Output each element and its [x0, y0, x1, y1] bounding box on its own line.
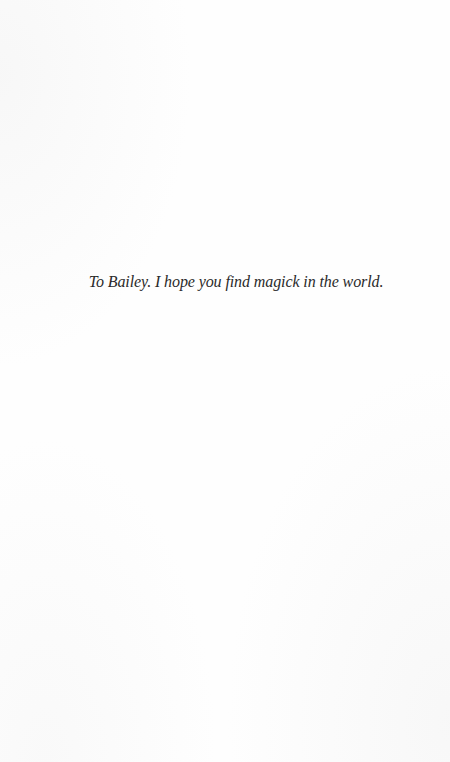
book-page: To Bailey. I hope you find magick in the…	[0, 0, 450, 762]
dedication-text: To Bailey. I hope you find magick in the…	[0, 272, 450, 292]
